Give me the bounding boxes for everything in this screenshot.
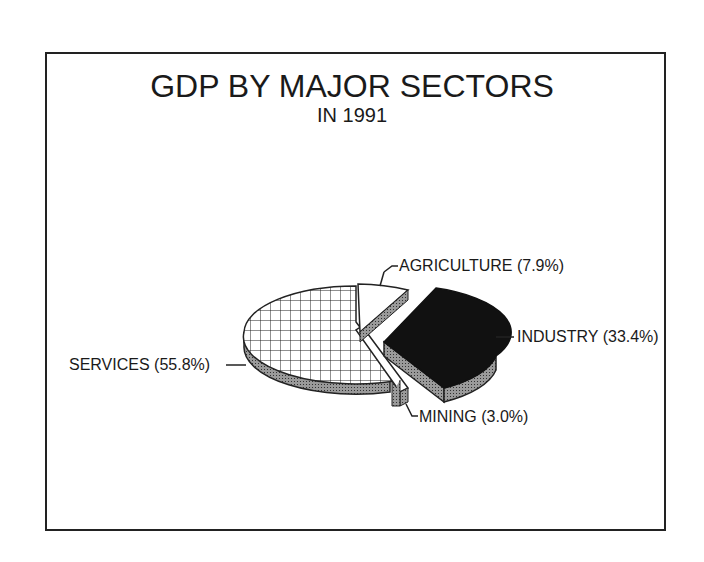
label-services: SERVICES (55.8%): [69, 356, 210, 374]
label-mining: MINING (3.0%): [419, 408, 528, 426]
leader-agriculture: [384, 266, 398, 272]
leader-mining: [406, 404, 418, 416]
label-agriculture: AGRICULTURE (7.9%): [399, 257, 564, 275]
label-industry: INDUSTRY (33.4%): [517, 328, 659, 346]
pie-chart: [0, 0, 704, 562]
